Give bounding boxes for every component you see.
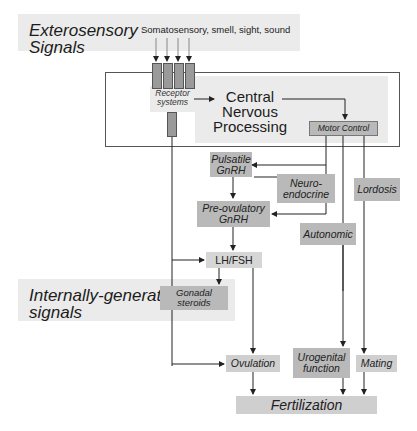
exterosensory-title-line2: Signals — [29, 39, 138, 56]
preovulatory-line2: GnRH — [202, 214, 264, 225]
receptor-bar-internal — [167, 112, 177, 137]
neuro-line1: Neuro- — [283, 178, 329, 189]
receptor-line2: systems — [150, 98, 195, 107]
receptor-bar-2 — [163, 63, 173, 89]
exterosensory-title: Exterosensory Signals — [29, 22, 138, 56]
pulsatile-line2: GnRH — [211, 165, 251, 176]
motor-control-box: Motor Control — [309, 121, 378, 136]
gonadal-line2: steroids — [176, 298, 212, 308]
neuro-line2: endocrine — [283, 189, 329, 200]
fertilization-box: Fertilization — [236, 396, 377, 414]
preovulatory-gnrh-box: Pre-ovulatoryGnRH — [197, 201, 270, 227]
lhfsh-box: LH/FSH — [206, 252, 262, 268]
cnp-line2: Nervous — [210, 104, 290, 119]
receptor-bar-3 — [174, 63, 184, 89]
receptor-bar-1 — [152, 63, 162, 89]
urogenital-line2: function — [298, 363, 346, 374]
receptor-systems-label: Receptor systems — [150, 89, 195, 107]
central-nervous-processing-label: Central Nervous Processing — [210, 89, 290, 134]
neuroendocrine-box: Neuro-endocrine — [277, 174, 335, 203]
internal-signals-title: Internally-generated signals — [29, 287, 180, 321]
pulsatile-gnrh-box: PulsatileGnRH — [210, 152, 252, 177]
gonadal-steroids-box: Gonadalsteroids — [160, 286, 228, 310]
receptor-bar-4 — [185, 63, 195, 89]
internal-title-line2: signals — [29, 304, 180, 321]
mating-box: Mating — [356, 355, 397, 372]
autonomic-box: Autonomic — [300, 223, 356, 245]
exterosensory-title-line1: Exterosensory — [29, 22, 138, 39]
internal-title-line1: Internally-generated — [29, 287, 180, 304]
cnp-line1: Central — [210, 89, 290, 104]
sensory-inputs-label: Somatosensory, smell, sight, sound — [141, 24, 290, 35]
pulsatile-line1: Pulsatile — [211, 154, 251, 165]
ovulation-box: Ovulation — [226, 355, 280, 372]
lordosis-box: Lordosis — [354, 178, 400, 201]
urogenital-function-box: Urogenitalfunction — [293, 348, 350, 378]
cnp-line3: Processing — [210, 119, 290, 134]
